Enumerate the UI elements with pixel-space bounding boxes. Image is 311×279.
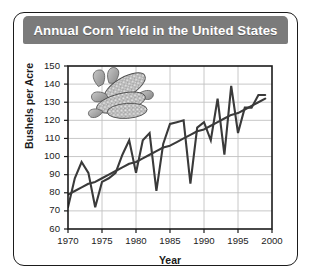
y-tick-label: 120 xyxy=(34,114,60,125)
x-axis-label: Year xyxy=(68,254,272,266)
y-tick-label: 90 xyxy=(34,168,60,179)
y-tick-label: 110 xyxy=(34,132,60,143)
x-tick-label: 1985 xyxy=(154,235,186,246)
y-tick-label: 130 xyxy=(34,96,60,107)
y-tick-label: 140 xyxy=(34,78,60,89)
y-tick-label: 70 xyxy=(34,204,60,215)
x-tick-label: 1970 xyxy=(52,235,84,246)
y-tick-label: 60 xyxy=(34,223,60,234)
x-tick-label: 1975 xyxy=(86,235,118,246)
plot-area-wrapper: Bushels per Acre Year xyxy=(0,0,311,279)
x-tick-label: 1995 xyxy=(222,235,254,246)
x-tick-label: 1990 xyxy=(188,235,220,246)
x-tick-label: 1980 xyxy=(120,235,152,246)
y-tick-label: 150 xyxy=(34,60,60,71)
chart-figure: Annual Corn Yield in the United States B… xyxy=(0,0,311,279)
y-tick-label: 100 xyxy=(34,150,60,161)
x-tick-label: 2000 xyxy=(256,235,288,246)
y-tick-label: 80 xyxy=(34,186,60,197)
